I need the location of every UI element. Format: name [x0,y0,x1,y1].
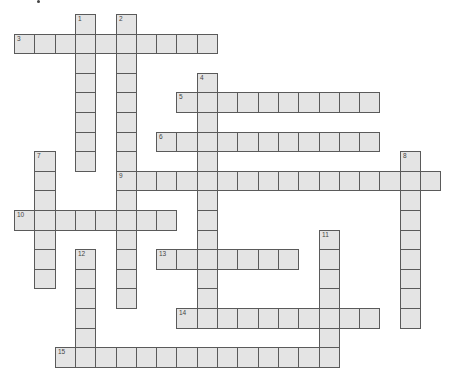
crossword-cell[interactable]: 3 [14,34,35,54]
crossword-cell[interactable]: 7 [34,151,56,172]
crossword-cell[interactable] [116,190,137,211]
crossword-cell[interactable] [197,132,218,152]
crossword-cell[interactable] [217,347,238,368]
crossword-cell[interactable] [217,92,238,113]
crossword-cell[interactable]: 11 [319,230,340,250]
crossword-cell[interactable] [95,210,117,231]
crossword-cell[interactable] [197,269,218,289]
crossword-cell[interactable] [359,308,380,329]
crossword-cell[interactable] [359,92,380,113]
crossword-cell[interactable] [75,347,96,368]
crossword-cell[interactable] [75,328,96,348]
crossword-cell[interactable] [75,151,96,172]
crossword-cell[interactable] [75,112,96,133]
crossword-cell[interactable] [197,190,218,211]
crossword-cell[interactable]: 13 [156,249,177,270]
crossword-cell[interactable] [197,288,218,309]
crossword-cell[interactable] [75,73,96,93]
crossword-cell[interactable]: 10 [14,210,35,231]
crossword-cell[interactable] [197,308,218,329]
crossword-cell[interactable] [116,34,137,54]
crossword-cell[interactable] [319,269,340,289]
crossword-cell[interactable] [156,210,177,231]
crossword-cell[interactable] [95,34,117,54]
crossword-cell[interactable] [359,171,380,191]
crossword-cell[interactable]: 4 [197,73,218,93]
crossword-cell[interactable] [217,171,238,191]
crossword-cell[interactable] [237,92,259,113]
crossword-cell[interactable] [197,151,218,172]
crossword-cell[interactable] [217,132,238,152]
crossword-cell[interactable] [278,249,299,270]
crossword-cell[interactable] [319,328,340,348]
crossword-cell[interactable] [258,92,279,113]
crossword-cell[interactable]: 6 [156,132,177,152]
crossword-cell[interactable] [319,347,340,368]
crossword-cell[interactable] [116,269,137,289]
crossword-cell[interactable] [258,347,279,368]
crossword-cell[interactable] [197,347,218,368]
crossword-cell[interactable] [319,288,340,309]
crossword-cell[interactable]: 9 [116,171,137,191]
crossword-cell[interactable] [278,347,299,368]
crossword-cell[interactable] [197,34,218,54]
crossword-cell[interactable] [278,132,299,152]
crossword-cell[interactable] [400,308,421,329]
crossword-cell[interactable] [55,34,76,54]
crossword-cell[interactable] [278,308,299,329]
crossword-cell[interactable] [379,171,401,191]
crossword-cell[interactable] [319,92,340,113]
crossword-cell[interactable] [116,210,137,231]
crossword-cell[interactable] [400,269,421,289]
crossword-cell[interactable] [156,34,177,54]
crossword-cell[interactable] [237,171,259,191]
crossword-cell[interactable]: 12 [75,249,96,270]
crossword-cell[interactable] [116,249,137,270]
crossword-cell[interactable] [34,269,56,289]
crossword-cell[interactable] [298,171,320,191]
crossword-cell[interactable] [176,249,198,270]
crossword-cell[interactable] [197,230,218,250]
crossword-cell[interactable]: 14 [176,308,198,329]
crossword-cell[interactable] [237,249,259,270]
crossword-cell[interactable] [237,308,259,329]
crossword-cell[interactable] [319,249,340,270]
crossword-cell[interactable] [156,171,177,191]
crossword-cell[interactable] [34,249,56,270]
crossword-cell[interactable] [400,171,421,191]
crossword-cell[interactable] [156,347,177,368]
crossword-cell[interactable] [258,249,279,270]
crossword-cell[interactable] [197,249,218,270]
crossword-cell[interactable] [319,308,340,329]
crossword-cell[interactable] [95,347,117,368]
crossword-cell[interactable] [298,132,320,152]
crossword-cell[interactable] [176,171,198,191]
crossword-cell[interactable] [34,230,56,250]
crossword-cell[interactable] [116,230,137,250]
crossword-cell[interactable] [75,308,96,329]
crossword-cell[interactable]: 5 [176,92,198,113]
crossword-cell[interactable] [298,92,320,113]
crossword-cell[interactable] [176,34,198,54]
crossword-cell[interactable] [75,34,96,54]
crossword-cell[interactable] [278,92,299,113]
crossword-cell[interactable] [420,171,441,191]
crossword-cell[interactable] [258,171,279,191]
crossword-cell[interactable] [400,230,421,250]
crossword-cell[interactable] [136,171,157,191]
crossword-cell[interactable] [400,210,421,231]
crossword-cell[interactable] [197,92,218,113]
crossword-cell[interactable] [176,132,198,152]
crossword-cell[interactable] [34,171,56,191]
crossword-cell[interactable] [339,171,360,191]
crossword-cell[interactable] [116,53,137,74]
crossword-cell[interactable] [319,171,340,191]
crossword-cell[interactable] [237,132,259,152]
crossword-cell[interactable] [298,347,320,368]
crossword-cell[interactable] [258,132,279,152]
crossword-cell[interactable]: 1 [75,14,96,35]
crossword-cell[interactable] [116,132,137,152]
crossword-cell[interactable] [298,308,320,329]
crossword-cell[interactable] [339,308,360,329]
crossword-cell[interactable] [116,112,137,133]
